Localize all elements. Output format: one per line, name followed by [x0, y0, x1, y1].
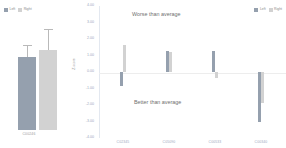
main-plot-area: C02345C05090C00533C00340	[100, 6, 284, 138]
x-axis-category-label: C05090	[163, 140, 176, 144]
annotation-worse-than-average: Worse than average	[132, 11, 180, 17]
main-chart: Z-score 4.003.002.001.000.00-1.00-2.00-3…	[72, 0, 286, 148]
legend-entry-right: Right	[18, 8, 31, 12]
bar-right	[123, 45, 126, 72]
x-axis-category-label: C00340	[255, 140, 268, 144]
x-axis-category-label: C00533	[209, 140, 222, 144]
legend-swatch-left-icon	[4, 8, 8, 12]
y-axis-tick-label: 1.00	[72, 54, 94, 58]
legend-label-left: Left	[10, 8, 16, 11]
inset-errorbar-left-cap	[23, 45, 32, 46]
bar-group: C00533	[192, 6, 238, 138]
inset-errorbar-right-cap	[44, 29, 53, 30]
legend-entry-left: Left	[4, 8, 15, 12]
bar-left	[120, 72, 123, 86]
inset-category-label: C00246	[0, 132, 58, 136]
inset-bar-left	[18, 57, 36, 130]
y-axis-title: Z-score	[72, 58, 76, 70]
bar-left	[212, 51, 215, 72]
annotation-better-than-average: Better than average	[134, 99, 181, 105]
y-axis-tick-label: 2.00	[72, 37, 94, 41]
bar-group: C00340	[238, 6, 284, 138]
bar-right	[261, 72, 264, 103]
inset-errorbar-left	[27, 45, 28, 57]
inset-bar-right	[39, 50, 57, 130]
bar-group: C05090	[146, 6, 192, 138]
y-axis-tick-label: -2.00	[72, 103, 94, 107]
y-axis-tick-label: 4.00	[72, 4, 94, 8]
x-axis-category-label: C02345	[117, 140, 130, 144]
bar-group: C02345	[100, 6, 146, 138]
inset-chart: C00246	[0, 18, 72, 148]
bar-right	[169, 52, 172, 72]
inset-errorbar-right	[48, 29, 49, 50]
legend-label-right: Right	[24, 8, 32, 11]
y-axis-tick-label: -1.00	[72, 87, 94, 91]
bar-right	[215, 72, 218, 78]
chart-figure: Left Right Left Right C00246	[0, 0, 286, 148]
inset-plot-area	[8, 18, 66, 130]
y-axis-tick-label: -4.00	[72, 136, 94, 140]
legend-swatch-right-icon	[18, 8, 22, 12]
y-axis-tick-label: -3.00	[72, 120, 94, 124]
legend-inset: Left Right	[4, 8, 32, 12]
y-axis-tick-label: 3.00	[72, 21, 94, 25]
y-axis-tick-label: 0.00	[72, 70, 94, 74]
